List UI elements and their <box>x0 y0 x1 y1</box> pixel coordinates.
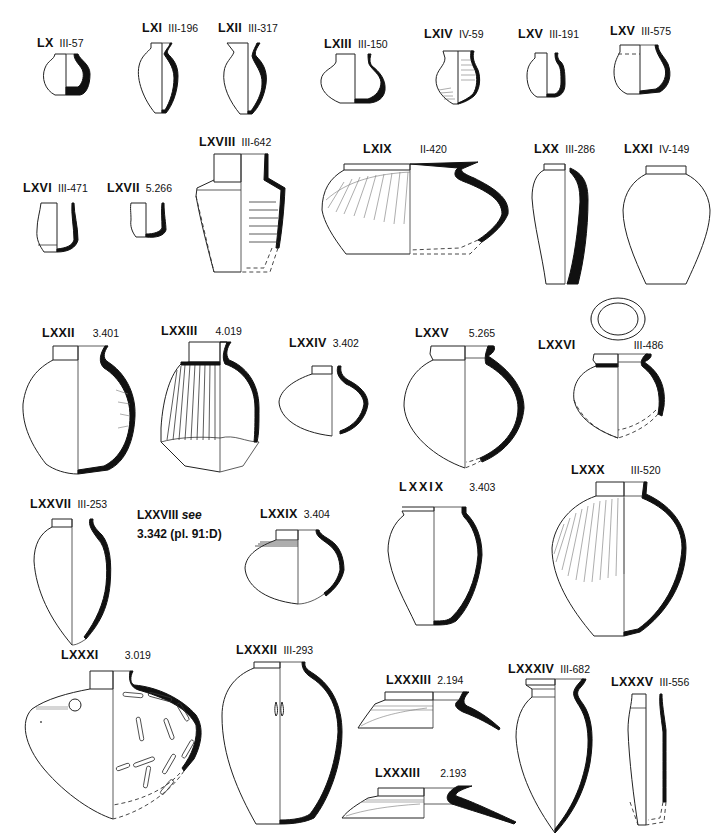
vessel-lxxix-b-drawing <box>386 503 486 628</box>
vessel-lxxxiii-a-drawing <box>355 688 490 738</box>
label-lxxii: LXXII3.401 <box>42 327 119 339</box>
label-lxiii: LXIIIIII-150 <box>324 38 388 50</box>
vessel-lxix-drawing <box>318 160 508 260</box>
vessel-lxxxv-drawing <box>626 690 676 830</box>
label-lxi: LXIIII-196 <box>142 22 198 34</box>
label-lxxix-a: LXXIX3.404 <box>260 508 330 520</box>
label-lxv-b: LXVIII-575 <box>610 25 671 37</box>
label-lxxxi: LXXXI3.019 <box>61 649 151 661</box>
vessel-lxv-a-drawing <box>525 50 570 100</box>
vessel-lxxxiii-b-drawing <box>340 784 520 830</box>
vessel-lxxx-drawing <box>548 478 693 640</box>
vessel-lxii-drawing <box>220 40 280 115</box>
vessel-lxv-b-drawing <box>612 42 677 97</box>
label-lxii: LXIIIII-317 <box>218 22 278 34</box>
label-lxix: LXIXII-420 <box>363 143 447 155</box>
label-lxxv: LXXV5.265 <box>415 327 495 339</box>
vessel-lxi-drawing <box>134 40 194 115</box>
label-lxxxiii-a: LXXXIII2.194 <box>386 674 463 686</box>
vessel-lxxi-drawing <box>620 162 715 288</box>
label-lx: LXIII-57 <box>37 37 84 49</box>
vessel-lxviii-drawing <box>192 150 292 275</box>
note-lxxviii: LXXVIII see 3.342 (pl. 91:D) <box>137 506 222 544</box>
vessel-lxiv-drawing <box>433 48 483 106</box>
vessel-lxx-drawing <box>530 160 610 290</box>
vessel-lxxix-a-drawing <box>240 526 350 608</box>
label-lxxiii: LXXIII4.019 <box>161 325 242 337</box>
vessel-lxxxi-drawing <box>18 665 213 835</box>
label-lxx: LXXIII-286 <box>534 143 595 155</box>
label-lxvi: LXVIIII-471 <box>23 182 88 194</box>
vessel-lxxiv-drawing <box>276 362 371 440</box>
vessel-lxxii-drawing <box>20 342 140 477</box>
vessel-lxxvi-drawing <box>560 296 710 446</box>
label-lxiv: LXIVIV-59 <box>424 28 484 40</box>
label-lxxiv: LXXIV3.402 <box>289 337 359 349</box>
vessel-lxxxiv-drawing <box>512 675 597 835</box>
vessel-lxxv-drawing <box>400 342 530 472</box>
label-lxxx: LXXXIII-520 <box>571 464 661 476</box>
label-lxxvii: LXXVIIIII-253 <box>30 498 107 510</box>
label-lxv-a: LXVIII-191 <box>518 28 579 40</box>
label-lxxxv: LXXXVIII-556 <box>611 676 689 688</box>
label-lxxxii: LXXXIIIII-293 <box>236 644 313 656</box>
vessel-lxvii-drawing <box>128 200 173 240</box>
vessel-lxvi-drawing <box>34 200 79 255</box>
vessel-lxxvii-drawing <box>30 515 120 650</box>
label-lxxix-b: LXXIX3.403 <box>399 481 495 493</box>
vessel-lxiii-drawing <box>318 50 390 106</box>
label-lxxi: LXXIIV-149 <box>624 143 689 155</box>
label-lxvii: LXVII5.266 <box>107 182 172 194</box>
pottery-plate: LXIII-57 LXIIII-196 LXIIIII-317 LXIIIIII… <box>0 0 726 839</box>
vessel-lx-drawing <box>40 50 100 100</box>
label-lxxxiii-b: LXXXIII2.193 <box>375 767 466 779</box>
label-lxviii: LXVIIIIII-642 <box>199 136 271 148</box>
label-lxxxiv: LXXXIVIII-682 <box>508 663 590 675</box>
vessel-lxxiii-drawing <box>155 338 265 478</box>
vessel-lxxxii-drawing <box>218 658 348 828</box>
